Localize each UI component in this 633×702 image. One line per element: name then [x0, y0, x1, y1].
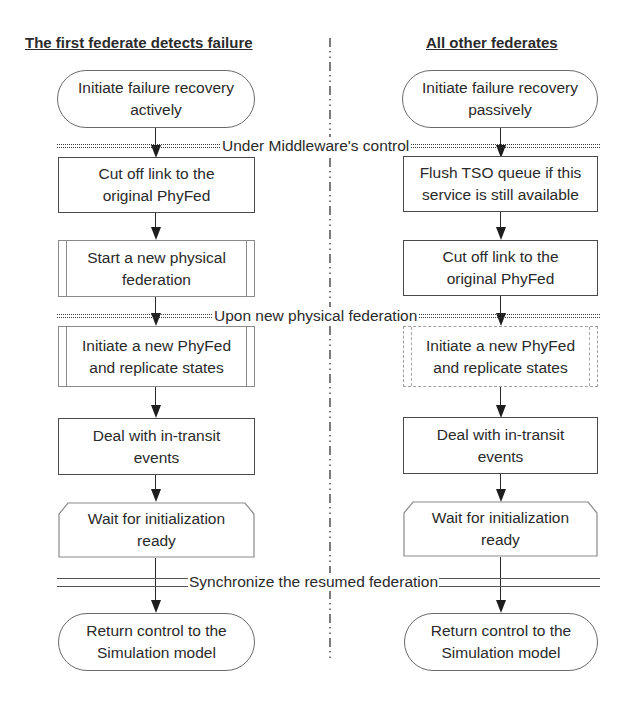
right-column-header: All other federates: [426, 34, 558, 51]
right-step-wait-initialization: Wait for initialization ready: [403, 501, 598, 557]
right-step-2-text: Flush TSO queue if this service is still…: [420, 162, 582, 206]
right-step-1-text: Initiate failure recovery passively: [422, 77, 578, 121]
right-step-initiate-phyfed: Initiate a new PhyFed and replicate stat…: [403, 326, 598, 387]
right-step-cut-off-link: Cut off link to the original PhyFed: [403, 240, 598, 296]
right-step-3-text: Cut off link to the original PhyFed: [442, 246, 558, 290]
right-step-initiate-recovery: Initiate failure recovery passively: [402, 70, 598, 128]
right-connector-3: [500, 296, 501, 314]
divider-1-label: Under Middleware's control: [221, 137, 410, 155]
right-step-flush-tso-queue: Flush TSO queue if this service is still…: [403, 156, 598, 212]
left-step-return-control: Return control to the Simulation model: [58, 613, 255, 671]
left-arrow-5-icon: [151, 489, 161, 502]
right-connector-5: [500, 474, 501, 490]
left-step-1-text: Initiate failure recovery actively: [78, 77, 234, 121]
left-connector-6: [155, 558, 156, 601]
left-arrow-4-icon: [151, 405, 161, 418]
right-connector-2: [500, 212, 501, 228]
right-step-return-control: Return control to the Simulation model: [404, 613, 598, 671]
right-step-4-text: Initiate a new PhyFed and replicate stat…: [426, 335, 575, 379]
left-step-5-text: Deal with in-transit events: [93, 425, 221, 469]
left-connector-4: [155, 387, 156, 406]
left-step-6-text: Wait for initialization ready: [88, 508, 225, 552]
left-connector-2: [155, 213, 156, 228]
left-step-in-transit-events: Deal with in-transit events: [58, 418, 255, 475]
left-connector-3: [155, 297, 156, 314]
column-separator-line: [329, 38, 331, 658]
right-step-6-text: Wait for initialization ready: [432, 507, 569, 551]
right-arrow-6-icon: [496, 600, 506, 613]
right-step-in-transit-events: Deal with in-transit events: [403, 417, 598, 474]
right-connector-6: [500, 557, 501, 601]
right-connector-4: [500, 387, 501, 406]
divider-3-label: Synchronize the resumed federation: [188, 573, 439, 591]
right-step-7-text: Return control to the Simulation model: [431, 620, 571, 664]
left-step-initiate-recovery: Initiate failure recovery actively: [57, 70, 255, 128]
left-step-wait-initialization: Wait for initialization ready: [58, 502, 255, 558]
left-arrow-2-icon: [151, 227, 161, 240]
right-arrow-2-icon: [496, 227, 506, 240]
left-step-cut-off-link: Cut off link to the original PhyFed: [58, 157, 255, 213]
divider-2-label: Upon new physical federation: [213, 307, 418, 325]
left-step-3-text: Start a new physical federation: [87, 247, 226, 291]
right-step-5-text: Deal with in-transit events: [437, 424, 565, 468]
left-column-header: The first federate detects failure: [25, 34, 253, 51]
left-step-4-text: Initiate a new PhyFed and replicate stat…: [82, 335, 231, 379]
left-step-start-physical-federation: Start a new physical federation: [58, 240, 255, 297]
left-connector-5: [155, 475, 156, 490]
left-arrow-6-icon: [151, 600, 161, 613]
left-step-initiate-phyfed: Initiate a new PhyFed and replicate stat…: [58, 326, 255, 387]
left-step-2-text: Cut off link to the original PhyFed: [98, 163, 214, 207]
left-step-7-text: Return control to the Simulation model: [86, 620, 226, 664]
